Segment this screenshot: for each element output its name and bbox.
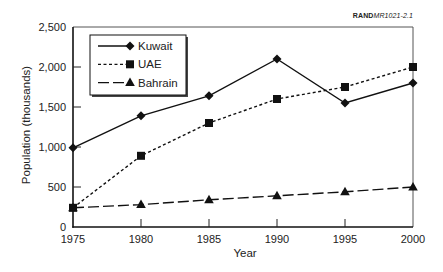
diamond-marker — [69, 143, 78, 152]
diamond-marker — [137, 111, 146, 120]
diamond-marker — [273, 55, 282, 64]
square-marker — [409, 63, 417, 71]
diamond-marker — [341, 99, 350, 108]
square-marker — [341, 83, 349, 91]
population-line-chart: 05001,0001,5002,0002,500 197519801985199… — [0, 0, 443, 272]
square-marker — [126, 60, 134, 68]
y-tick-label: 2,500 — [38, 21, 66, 33]
y-tick-label: 500 — [48, 181, 66, 193]
y-axis-title: Population (thousands) — [20, 66, 32, 184]
legend-label: Bahrain — [138, 77, 178, 89]
triangle-marker — [136, 200, 146, 209]
y-tick-label: 1,000 — [38, 141, 66, 153]
legend: KuwaitUAEBahrain — [90, 35, 188, 97]
triangle-marker — [272, 191, 282, 200]
square-marker — [273, 95, 281, 103]
square-marker — [137, 152, 145, 160]
y-axis-ticks: 05001,0001,5002,0002,500 — [38, 21, 81, 233]
y-tick-label: 0 — [60, 221, 66, 233]
x-tick-label: 1990 — [265, 233, 289, 245]
x-tick-label: 1995 — [333, 233, 357, 245]
x-tick-label: 2000 — [401, 233, 425, 245]
legend-label: UAE — [138, 58, 162, 70]
x-axis-ticks: 197519801985199019952000 — [61, 219, 425, 245]
diamond-marker — [409, 79, 418, 88]
square-marker — [205, 119, 213, 127]
diamond-marker — [205, 91, 214, 100]
y-tick-label: 1,500 — [38, 101, 66, 113]
x-tick-label: 1980 — [129, 233, 153, 245]
y-tick-label: 2,000 — [38, 61, 66, 73]
triangle-marker — [408, 182, 418, 191]
legend-label: Kuwait — [138, 40, 173, 52]
x-tick-label: 1985 — [197, 233, 221, 245]
x-axis-title: Year — [233, 247, 256, 259]
series-line — [73, 187, 413, 208]
series-bahrain — [68, 182, 418, 211]
x-tick-label: 1975 — [61, 233, 85, 245]
